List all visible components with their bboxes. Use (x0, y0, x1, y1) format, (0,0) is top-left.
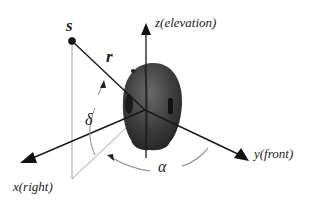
elevation-angle-label: δ (85, 111, 93, 128)
elevation-arrowhead-icon (100, 80, 106, 88)
coordinate-diagram: s r δ α z(elevation) x(right) y(front) (0, 0, 319, 204)
source-label: s (65, 16, 73, 35)
z-axis-label: z(elevation) (154, 15, 216, 30)
y-axis-arrowhead-icon (234, 148, 249, 161)
x-axis-arrowhead-icon (20, 152, 37, 163)
azimuth-angle-label: α (158, 158, 167, 175)
right-ear (168, 98, 173, 114)
source-point-icon (68, 37, 76, 45)
y-axis-label: y(front) (252, 146, 293, 161)
dummy-head (123, 63, 182, 150)
azimuth-arrowhead-icon (107, 154, 114, 161)
x-axis-label: x(right) (12, 179, 53, 194)
radius-label: r (106, 47, 113, 66)
z-axis-arrowhead-icon (141, 23, 151, 35)
